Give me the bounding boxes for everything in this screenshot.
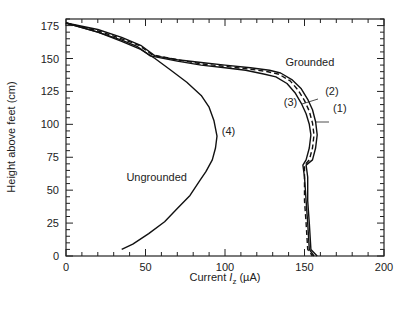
axis-ticks [66,19,384,256]
annotation-label: Grounded [285,56,334,68]
y-tick-label: 150 [41,53,59,65]
y-tick-labels: 0255075100125150175 [41,20,59,262]
x-tick-label: 50 [139,261,151,273]
curve-1 [66,23,317,256]
annotation-label: (2) [325,85,338,97]
x-tick-label: 0 [63,261,69,273]
y-tick-label: 0 [53,250,59,262]
annotation-label: (1) [333,102,346,114]
curve-annotations: Grounded(2)(3)(1)(4)Ungrounded [126,56,346,183]
y-tick-label: 100 [41,118,59,130]
curve-2 [66,23,314,256]
y-tick-label: 75 [47,151,59,163]
x-tick-label: 200 [375,261,393,273]
chart: 050100150200 0255075100125150175 Grounde… [0,0,411,309]
annotation-label: (3) [284,96,297,108]
annotation-label: (4) [222,125,235,137]
x-axis-title: Current Iz (µA) [190,271,261,286]
curve-3 [66,23,314,256]
y-tick-label: 50 [47,184,59,196]
plot-frame [66,19,384,256]
y-tick-label: 175 [41,20,59,32]
annotation-label: Ungrounded [126,171,187,183]
y-axis-title: Height above feet (cm) [5,81,17,192]
x-tick-label: 150 [295,261,313,273]
y-tick-label: 125 [41,85,59,97]
plot-curves [66,23,317,256]
y-tick-label: 25 [47,217,59,229]
curve-4 [66,23,217,249]
